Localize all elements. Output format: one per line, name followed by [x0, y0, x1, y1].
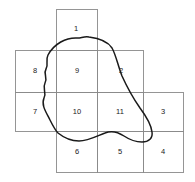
region-boundary-curve: [43, 37, 152, 142]
venn-grid-figure: 1 8 9 2 7 10 11 3 6 5 4: [0, 0, 195, 182]
figure-canvas: [0, 0, 195, 182]
cell-label-1: 1: [74, 25, 78, 33]
cell-label-2: 2: [119, 67, 123, 75]
cell-label-5: 5: [118, 148, 122, 156]
cell-label-11: 11: [116, 108, 124, 116]
cell-label-6: 6: [75, 148, 79, 156]
cell-label-8: 8: [33, 67, 37, 75]
grid-rectangles: [15, 9, 183, 172]
cell-label-10: 10: [73, 108, 81, 116]
cell-label-7: 7: [33, 108, 37, 116]
cell-label-9: 9: [75, 67, 79, 75]
cell-label-4: 4: [161, 148, 165, 156]
cell-label-3: 3: [161, 108, 165, 116]
